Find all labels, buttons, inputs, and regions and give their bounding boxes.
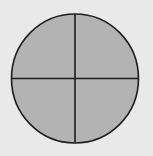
quadrant-bottom-left [12, 79, 76, 144]
quadrant-top-right [75, 14, 139, 79]
quadrant-top-left [12, 14, 76, 79]
quadrant-bottom-right [75, 79, 139, 144]
fraction-circle-diagram [0, 0, 153, 156]
